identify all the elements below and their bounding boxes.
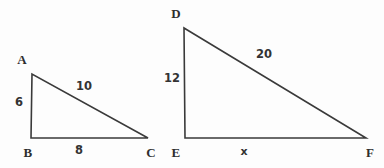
vertex-label-e: E <box>172 146 181 159</box>
vertex-label-b: B <box>24 146 33 159</box>
triangle-def-shape <box>184 28 366 138</box>
side-length-bc: 8 <box>75 145 83 157</box>
side-length-ab: 6 <box>15 97 23 109</box>
side-length-df: 20 <box>256 49 272 61</box>
vertex-label-c: C <box>146 146 156 159</box>
side-length-ac: 10 <box>76 81 92 93</box>
triangles-svg <box>0 0 384 168</box>
vertex-label-f: F <box>366 146 374 159</box>
vertex-label-a: A <box>17 53 27 66</box>
triangle-def-outline <box>184 28 366 138</box>
geometry-figure-canvas: A B C 6 10 8 D E F 12 20 x <box>0 0 384 168</box>
vertex-label-d: D <box>171 7 181 20</box>
side-length-de: 12 <box>164 73 180 85</box>
side-length-ef-unknown: x <box>240 146 247 157</box>
